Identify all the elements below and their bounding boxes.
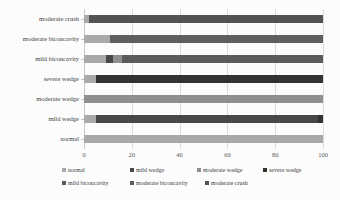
x-tick-label: 40 xyxy=(176,151,183,158)
legend-marker xyxy=(263,168,267,172)
bar-segment-mild-wedge xyxy=(106,55,113,63)
y-axis-tick xyxy=(81,19,84,20)
bar-segment-normal xyxy=(84,35,110,43)
legend-label: mild biconcavity xyxy=(68,180,109,186)
bar-segment-mild-biconcavity xyxy=(122,55,323,63)
legend-label: moderate biconcavity xyxy=(136,180,188,186)
legend-item-moderate-biconcavity: moderate biconcavity xyxy=(130,178,188,187)
bar-row xyxy=(84,135,323,143)
legend-marker xyxy=(62,181,66,185)
stacked-bar-chart: moderate crushmoderate biconcavitymild b… xyxy=(0,0,340,200)
y-axis-label: normal xyxy=(0,129,79,149)
legend-label: normal xyxy=(68,167,85,173)
x-tick-label: 80 xyxy=(272,151,279,158)
legend-marker xyxy=(197,168,201,172)
bar-segment-severe-wedge xyxy=(318,115,323,123)
bar-segment-moderate-biconcavity xyxy=(110,35,323,43)
y-axis-tick xyxy=(81,59,84,60)
bar-row xyxy=(84,95,323,103)
bar-row xyxy=(84,115,323,123)
bar-row xyxy=(84,55,323,63)
legend-item-severe-wedge: severe wedge xyxy=(263,165,301,174)
bar-row xyxy=(84,15,323,23)
plot-area xyxy=(84,9,323,149)
y-axis-tick xyxy=(81,119,84,120)
x-tick-label: 100 xyxy=(318,151,328,158)
bar-segment-normal xyxy=(84,115,96,123)
x-axis-tick-labels: 020406080100 xyxy=(84,151,323,159)
legend-label: mild wedge xyxy=(136,167,164,173)
bar-segment-normal xyxy=(84,55,106,63)
bar-segment-severe-wedge xyxy=(96,75,323,83)
legend-label: moderate crush xyxy=(211,180,248,186)
legend-marker xyxy=(130,181,134,185)
legend-item-moderate-crush: moderate crush xyxy=(205,178,248,187)
bar-segment-moderate-wedge xyxy=(113,55,123,63)
y-axis-tick xyxy=(81,39,84,40)
y-axis-labels: moderate crushmoderate biconcavitymild b… xyxy=(0,9,79,149)
legend-marker xyxy=(62,168,66,172)
bar-segment-normal xyxy=(84,135,323,143)
legend-item-mild-biconcavity: mild biconcavity xyxy=(62,178,109,187)
x-tick-label: 0 xyxy=(82,151,85,158)
gridline xyxy=(323,9,324,149)
legend-label: severe wedge xyxy=(269,167,301,173)
legend-label: moderate wedge xyxy=(203,167,242,173)
legend-item-moderate-wedge: moderate wedge xyxy=(197,165,242,174)
bar-row xyxy=(84,75,323,83)
bar-row xyxy=(84,35,323,43)
legend: normalmild wedgemoderate wedgesevere wed… xyxy=(0,165,340,195)
legend-item-normal: normal xyxy=(62,165,85,174)
y-axis-tick xyxy=(81,139,84,140)
y-axis-label: mild wedge xyxy=(0,109,79,129)
x-tick-label: 20 xyxy=(129,151,136,158)
y-axis-label: moderate wedge xyxy=(0,89,79,109)
bar-segment-normal xyxy=(84,75,96,83)
legend-marker xyxy=(130,168,134,172)
bar-segment-mild-wedge xyxy=(96,115,318,123)
bar-segment-moderate-crush xyxy=(89,15,323,23)
y-axis-tick xyxy=(81,79,84,80)
y-axis-label: moderate biconcavity xyxy=(0,29,79,49)
bar-segment-moderate-wedge xyxy=(84,95,323,103)
y-axis-tick xyxy=(81,99,84,100)
legend-item-mild-wedge: mild wedge xyxy=(130,165,164,174)
x-tick-label: 60 xyxy=(224,151,231,158)
y-axis-label: mild biconcavity xyxy=(0,49,79,69)
y-axis-label: moderate crush xyxy=(0,9,79,29)
y-axis-label: severe wedge xyxy=(0,69,79,89)
legend-marker xyxy=(205,181,209,185)
